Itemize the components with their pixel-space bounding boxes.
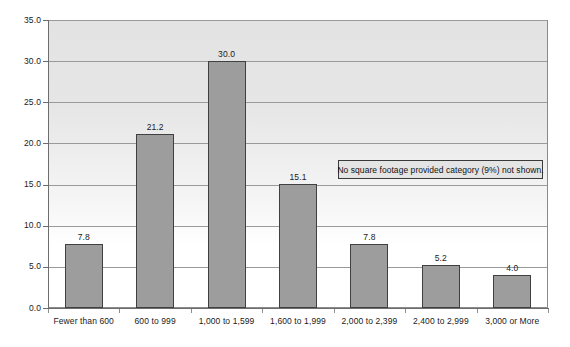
y-axis-tick-label: 35.0 [0,15,41,26]
y-axis-tick-label: 20.0 [0,138,41,149]
bar-value-label: 4.0 [477,263,548,273]
gridline [49,61,547,62]
x-axis-category-label: Fewer than 600 [48,316,119,326]
y-axis-tick-label: 25.0 [0,97,41,108]
x-axis-tick-mark [477,309,478,313]
bar-value-label: 5.2 [405,253,476,263]
x-axis-category-label: 1,600 to 1,999 [262,316,333,326]
y-axis-tick-text: 35.0 [1,15,41,25]
x-axis-tick-mark [119,309,120,313]
y-axis-tick-mark [43,226,48,227]
y-axis-tick-text: 25.0 [1,97,41,107]
bar [422,265,460,308]
bar [493,275,531,308]
bar-chart: 7.821.230.015.17.85.24.0 0.05.010.015.02… [0,0,570,347]
x-axis-category-label: 2,400 to 2,999 [405,316,476,326]
y-axis-tick-text: 5.0 [1,261,41,271]
annotation-text: No square footage provided category (9%)… [337,165,543,175]
x-axis-category-label: 3,000 or More [477,316,548,326]
x-axis-tick-mark [191,309,192,313]
gridline [49,143,547,144]
y-axis-tick-text: 15.0 [1,179,41,189]
bar [350,244,388,308]
y-axis-line [48,20,49,309]
y-axis-tick-mark [43,20,48,21]
bar [65,244,103,308]
bar [136,134,174,308]
y-axis-tick-mark [43,185,48,186]
x-axis-tick-mark [262,309,263,313]
gridline [49,20,547,21]
annotation-box: No square footage provided category (9%)… [338,160,543,179]
y-axis-tick-label: 30.0 [0,56,41,67]
x-axis-category-label: 600 to 999 [119,316,190,326]
bar [279,184,317,308]
x-axis-tick-mark [48,309,49,313]
x-axis-category-label: 1,000 to 1,599 [191,316,262,326]
y-axis-tick-mark [43,61,48,62]
y-axis-tick-label: 0.0 [0,303,41,314]
y-axis-tick-mark [43,143,48,144]
x-axis-tick-mark [548,309,549,313]
y-axis-tick-text: 10.0 [1,220,41,230]
bar-value-label: 15.1 [262,172,333,182]
y-axis-tick-mark [43,102,48,103]
gridline [49,102,547,103]
bar-value-label: 21.2 [119,122,190,132]
x-axis-tick-mark [405,309,406,313]
y-axis-tick-text: 30.0 [1,56,41,66]
x-axis-tick-mark [334,309,335,313]
y-axis-tick-label: 10.0 [0,220,41,231]
y-axis-tick-mark [43,267,48,268]
y-axis-tick-text: 20.0 [1,138,41,148]
x-axis-category-label: 2,000 to 2,399 [334,316,405,326]
bar-value-label: 30.0 [191,49,262,59]
y-axis-tick-text: 0.0 [1,303,41,313]
bar-value-label: 7.8 [48,232,119,242]
bar-value-label: 7.8 [334,232,405,242]
y-axis-tick-label: 15.0 [0,179,41,190]
bar [208,61,246,308]
x-axis-line [48,308,549,309]
y-axis-tick-label: 5.0 [0,261,41,272]
